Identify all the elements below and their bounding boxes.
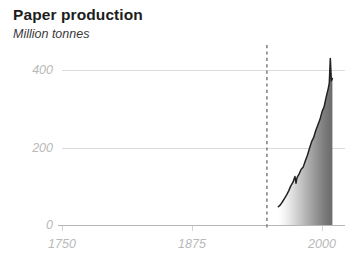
chart-figure: Paper production Million tonnes 400 200 [0,0,358,280]
y-tick-label-0: 0 [46,218,53,232]
y-tick-label-400: 400 [32,63,53,77]
x-tick-label-1875: 1875 [178,237,206,251]
y-tick-label-200: 200 [31,141,53,155]
x-axis-tick-labels: 1750 1875 2000 [48,237,336,251]
x-tick-label-2000: 2000 [307,237,336,251]
series-area-fill [278,58,332,225]
y-axis-tick-labels: 400 200 0 [31,63,53,232]
x-tick-label-1750: 1750 [48,237,76,251]
chart-plot-area: 400 200 0 1750 1875 2000 [0,0,358,280]
x-axis-tick-marks [63,226,323,231]
